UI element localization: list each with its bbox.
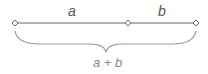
point-end-icon: [193, 20, 199, 26]
segment-b-label: b: [158, 4, 166, 18]
brace-icon: [15, 31, 196, 52]
sum-label: a + b: [93, 56, 122, 69]
segment-a-label: a: [68, 4, 76, 18]
point-middle-icon: [125, 20, 131, 26]
point-start-icon: [12, 20, 18, 26]
